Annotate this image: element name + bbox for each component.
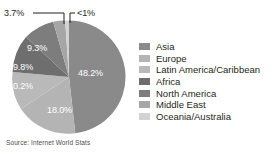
pie-chart-graphic [12, 20, 126, 134]
pie-chart-figure: 48.2% 18.0% 10.2% 9.8% 9.3% 3.7% <1% Asi… [0, 0, 276, 154]
legend-label-oceania: Oceania/Australia [156, 111, 231, 122]
legend-item-latin-america[interactable]: Latin America/Caribbean [139, 64, 273, 76]
legend-swatch-oceania [139, 113, 150, 120]
legend-item-north-america[interactable]: North America [139, 87, 273, 99]
slice-label-middle-east: 3.7% [4, 9, 24, 18]
slice-label-asia: 48.2% [78, 69, 103, 78]
legend-label-europe: Europe [156, 53, 187, 64]
legend-item-europe[interactable]: Europe [139, 53, 273, 65]
legend-swatch-europe [139, 55, 150, 62]
slice-label-north-america: 9.3% [27, 44, 47, 53]
pie-slices [12, 20, 126, 134]
legend-swatch-latin-america [139, 66, 150, 73]
legend-swatch-middle-east [139, 101, 150, 108]
source-note: Source: Internet World Stats [6, 139, 90, 146]
legend-label-latin-america: Latin America/Caribbean [156, 64, 260, 75]
chart-legend: Asia Europe Latin America/Caribbean Afri… [139, 41, 273, 122]
slice-label-oceania: <1% [77, 9, 95, 18]
legend-item-asia[interactable]: Asia [139, 41, 273, 53]
legend-swatch-asia [139, 43, 150, 50]
slice-label-africa: 9.8% [13, 63, 33, 72]
legend-swatch-north-america [139, 90, 150, 97]
legend-label-middle-east: Middle East [156, 99, 206, 110]
legend-item-oceania[interactable]: Oceania/Australia [139, 111, 273, 123]
legend-label-north-america: North America [156, 88, 216, 99]
legend-label-africa: Africa [156, 76, 180, 87]
slice-label-latin-america: 10.2% [8, 82, 33, 91]
legend-swatch-africa [139, 78, 150, 85]
legend-label-asia: Asia [156, 41, 174, 52]
legend-item-middle-east[interactable]: Middle East [139, 99, 273, 111]
slice-label-europe: 18.0% [47, 106, 72, 115]
legend-item-africa[interactable]: Africa [139, 76, 273, 88]
